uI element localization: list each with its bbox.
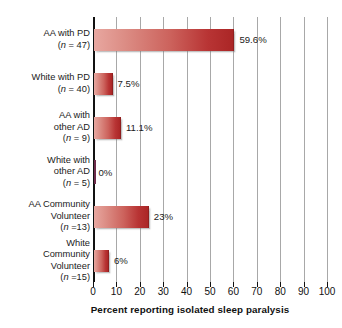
bar-row: WhiteCommunityVolunteer(n =15)6% [0, 239, 342, 282]
category-label-line: other AD [2, 166, 90, 177]
category-label: AA CommunityVolunteer(n =13) [2, 199, 90, 233]
bar-container: 11.1% [94, 105, 152, 150]
category-label: AA withother AD(n = 9) [2, 110, 90, 144]
bar [94, 29, 234, 51]
x-tick-label-30: 30 [158, 286, 169, 297]
sample-size-label: (n = 47) [2, 40, 90, 51]
bar-container: 23% [94, 194, 173, 239]
x-tick-label-80: 80 [275, 286, 286, 297]
bar-value-label: 6% [114, 255, 128, 266]
bar-value-label: 59.6% [239, 34, 266, 45]
sample-size-label: (n = 9) [2, 133, 90, 144]
x-axis-title-text: Percent reporting isolated sleep paralys… [53, 304, 290, 315]
x-tick-label-50: 50 [204, 286, 215, 297]
bar-row: White withother AD(n = 5)0% [0, 150, 342, 194]
category-label-line: AA with PD [2, 28, 90, 39]
bar-row: AA CommunityVolunteer(n =13)23% [0, 194, 342, 239]
bar-rows: AA with PD(n = 47)59.6%White with PD(n =… [0, 17, 342, 282]
bar [94, 206, 149, 228]
x-tick-label-100: 100 [319, 286, 336, 297]
category-label-line: White [2, 238, 90, 249]
sample-size-label: (n = 40) [2, 84, 90, 95]
x-axis-title: Percent reporting isolated sleep paralys… [0, 304, 342, 315]
bar [94, 250, 109, 272]
bar [94, 73, 113, 95]
category-label-line: White with [2, 155, 90, 166]
category-label-line: other AD [2, 122, 90, 133]
bar-container: 7.5% [94, 62, 139, 105]
bar [94, 160, 96, 184]
x-tick-label-10: 10 [111, 286, 122, 297]
x-tick-label-0: 0 [90, 286, 96, 297]
x-tick-label-20: 20 [134, 286, 145, 297]
bar-container: 0% [94, 150, 112, 194]
category-label-line: Volunteer [2, 211, 90, 222]
bar-row: White with PD(n = 40)7.5% [0, 62, 342, 105]
category-label: White withother AD(n = 5) [2, 155, 90, 189]
x-tick-label-70: 70 [251, 286, 262, 297]
bar-container: 6% [94, 239, 128, 282]
category-label: WhiteCommunityVolunteer(n =15) [2, 238, 90, 284]
bar-container: 59.6% [94, 17, 267, 62]
bar-row: AA with PD(n = 47)59.6% [0, 17, 342, 62]
bar-value-label: 0% [99, 167, 113, 178]
bar-chart: AA with PD(n = 47)59.6%White with PD(n =… [0, 0, 342, 328]
category-label-line: AA with [2, 110, 90, 121]
sample-size-label: (n = 5) [2, 178, 90, 189]
x-tick-label-40: 40 [181, 286, 192, 297]
x-tick-label-90: 90 [298, 286, 309, 297]
bar-value-label: 11.1% [126, 122, 153, 133]
category-label: AA with PD(n = 47) [2, 28, 90, 51]
bar-value-label: 23% [154, 211, 173, 222]
bar [94, 117, 121, 139]
category-label-line: AA Community [2, 199, 90, 210]
x-axis-tick-labels: 0102030405060708090100 [0, 286, 342, 300]
bar-row: AA withother AD(n = 9)11.1% [0, 105, 342, 150]
category-label: White with PD(n = 40) [2, 72, 90, 95]
bar-value-label: 7.5% [118, 78, 140, 89]
category-label-line: White with PD [2, 72, 90, 83]
category-label-line: Community [2, 249, 90, 260]
category-label-line: Volunteer [2, 261, 90, 272]
sample-size-label: (n =13) [2, 222, 90, 233]
x-tick-label-60: 60 [228, 286, 239, 297]
